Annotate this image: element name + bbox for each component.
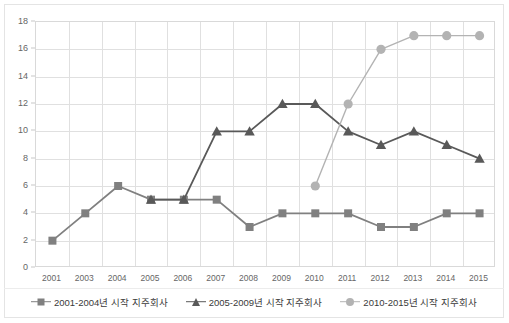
- y-axis-label-12: 12: [18, 99, 28, 108]
- y-axis-label-2: 2: [23, 235, 28, 244]
- series-line-1: [52, 186, 479, 241]
- y-axis-label-8: 8: [23, 153, 28, 162]
- y-axis-label-6: 6: [23, 181, 28, 190]
- legend-item-2[interactable]: 2005-2009년 시작 지주회사: [186, 295, 323, 309]
- y-axis-label-0: 0: [23, 263, 28, 272]
- data-point-3-2011: [344, 99, 353, 108]
- chart-legend: 2001-2004년 시작 지주회사2005-2009년 시작 지주회사2010…: [4, 288, 504, 314]
- legend-label: 2001-2004년 시작 지주회사: [54, 295, 168, 309]
- x-axis-label-2009: 2009: [272, 271, 291, 285]
- chart-title: [0, 0, 509, 2]
- data-point-3-2013: [409, 31, 418, 40]
- series-line-3: [315, 36, 479, 186]
- legend-item-1[interactable]: 2001-2004년 시작 지주회사: [31, 295, 168, 309]
- x-axis-label-2008: 2008: [239, 271, 258, 285]
- data-point-1-2013: [410, 223, 418, 231]
- y-axis-label-14: 14: [18, 71, 28, 80]
- data-point-1-2008: [246, 223, 254, 231]
- legend-marker-circle-icon: [340, 297, 360, 307]
- legend-item-3[interactable]: 2010-2015년 시작 지주회사: [340, 295, 477, 309]
- data-point-1-2014: [443, 209, 451, 217]
- legend-marker-square-icon: [31, 297, 51, 307]
- x-axis: 2001200320042005200620072008200920102011…: [35, 271, 495, 287]
- legend-marker-shape: [192, 298, 200, 306]
- x-axis-label-2003: 2003: [75, 271, 94, 285]
- legend-label: 2010-2015년 시작 지주회사: [363, 295, 477, 309]
- legend-label: 2005-2009년 시작 지주회사: [209, 295, 323, 309]
- x-axis-label-2004: 2004: [108, 271, 127, 285]
- x-axis-label-2005: 2005: [141, 271, 160, 285]
- chart-frame: 024681012141618 200120032004200520062007…: [4, 4, 504, 318]
- y-axis-label-18: 18: [18, 17, 28, 26]
- data-point-3-2010: [311, 181, 320, 190]
- legend-marker-shape: [346, 298, 354, 306]
- chart-container: 024681012141618 200120032004200520062007…: [0, 0, 509, 323]
- x-axis-label-2001: 2001: [42, 271, 61, 285]
- data-point-1-2012: [377, 223, 385, 231]
- series-3: [311, 31, 484, 191]
- data-point-1-2003: [81, 209, 89, 217]
- x-axis-label-2011: 2011: [338, 271, 356, 285]
- data-point-3-2014: [442, 31, 451, 40]
- y-axis: 024681012141618: [5, 21, 31, 267]
- x-axis-label-2015: 2015: [469, 271, 488, 285]
- data-point-1-2015: [476, 209, 484, 217]
- y-axis-label-16: 16: [18, 44, 28, 53]
- plot-area: [35, 21, 495, 267]
- series-layer: [36, 22, 496, 268]
- x-axis-label-2012: 2012: [371, 271, 390, 285]
- series-1: [48, 182, 483, 245]
- data-point-1-2004: [114, 182, 122, 190]
- legend-marker-shape: [37, 298, 44, 305]
- data-point-2-2013: [409, 126, 419, 135]
- x-axis-label-2013: 2013: [403, 271, 422, 285]
- data-point-3-2015: [475, 31, 484, 40]
- data-point-1-2001: [48, 237, 56, 245]
- y-axis-label-4: 4: [23, 208, 28, 217]
- x-axis-label-2006: 2006: [173, 271, 192, 285]
- legend-marker-triangle-icon: [186, 297, 206, 307]
- data-point-1-2010: [311, 209, 319, 217]
- x-axis-label-2007: 2007: [206, 271, 225, 285]
- data-point-1-2007: [213, 196, 221, 204]
- y-axis-label-10: 10: [18, 126, 28, 135]
- data-point-1-2009: [278, 209, 286, 217]
- x-axis-label-2010: 2010: [305, 271, 324, 285]
- data-point-1-2011: [344, 209, 352, 217]
- data-point-3-2012: [376, 45, 385, 54]
- x-axis-label-2014: 2014: [436, 271, 455, 285]
